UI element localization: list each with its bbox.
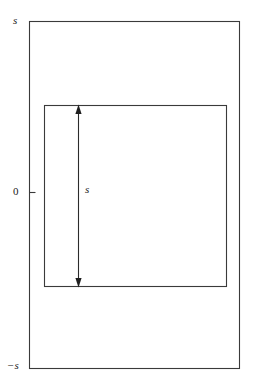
axis-label-top: s <box>13 15 17 26</box>
diagram-svg <box>0 0 254 379</box>
dimension-arrow-label: s <box>85 184 89 195</box>
inner-square <box>45 106 227 287</box>
figure-canvas: s 0 −s s <box>0 0 254 379</box>
axis-label-origin: 0 <box>13 186 19 197</box>
outer-square <box>30 22 240 369</box>
axis-label-bottom: −s <box>7 360 19 371</box>
